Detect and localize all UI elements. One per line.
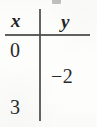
header-rule-divider — [5, 34, 90, 36]
column-header-y: y — [61, 12, 69, 31]
table-cell-x-row3: 3 — [10, 97, 20, 117]
table-cell-y-row2: −2 — [51, 66, 73, 86]
column-rule-divider — [39, 9, 41, 121]
table-cell-x-row1: 0 — [10, 40, 20, 60]
column-header-x: x — [11, 11, 21, 30]
table-figure: x y 0 −2 3 — [0, 0, 97, 127]
scan-artifact-icon — [52, 0, 61, 4]
